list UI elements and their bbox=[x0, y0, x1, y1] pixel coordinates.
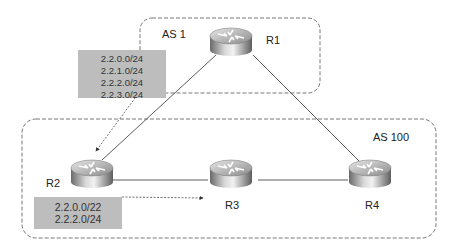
advertisement-arrow-r2-to-r3 bbox=[122, 197, 203, 198]
prefix-entry: 2.2.2.0/24 bbox=[78, 77, 166, 89]
router-r3-label: R3 bbox=[225, 199, 239, 211]
router-r4-label: R4 bbox=[365, 199, 379, 211]
router-r4-icon bbox=[349, 160, 391, 188]
prefix-entry: 2.2.1.0/24 bbox=[78, 65, 166, 77]
router-r2-icon bbox=[71, 160, 113, 188]
prefix-box-r2-advertisement: 2.2.0.0/22 2.2.2.0/24 bbox=[34, 197, 122, 229]
prefix-entry: 2.2.0.0/22 bbox=[34, 201, 122, 213]
router-r1-icon bbox=[210, 28, 252, 56]
as1-label: AS 1 bbox=[162, 28, 186, 40]
prefix-entry: 2.2.3.0/24 bbox=[78, 89, 166, 101]
bgp-aggregation-diagram: AS 1 AS 100 R1 R2 R3 R4 2.2.0.0/24 2.2.1… bbox=[0, 0, 454, 252]
prefix-entry: 2.2.2.0/24 bbox=[34, 213, 122, 225]
prefix-entry: 2.2.0.0/24 bbox=[78, 53, 166, 65]
as100-label: AS 100 bbox=[373, 131, 409, 143]
prefix-box-r1-advertisement: 2.2.0.0/24 2.2.1.0/24 2.2.2.0/24 2.2.3.0… bbox=[78, 50, 166, 98]
router-r3-icon bbox=[210, 160, 252, 188]
link-r1-r4 bbox=[253, 55, 361, 163]
router-r1-label: R1 bbox=[266, 34, 280, 46]
router-r2-label: R2 bbox=[46, 177, 60, 189]
